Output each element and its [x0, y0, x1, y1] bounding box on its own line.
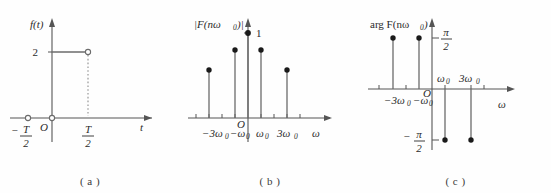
stem-neg-w0	[232, 47, 237, 118]
panel-b-xtick-neg-w0: −ω 0	[230, 127, 250, 141]
svg-text:−ω: −ω	[230, 127, 245, 139]
svg-text:−3ω: −3ω	[384, 94, 405, 106]
svg-text:0: 0	[429, 99, 433, 108]
panel-a: f(t) 2 O t − T 2 T 2 ( a )	[0, 0, 180, 193]
svg-text:0: 0	[407, 99, 411, 108]
svg-text:0: 0	[246, 132, 250, 141]
svg-text:): )	[423, 18, 428, 31]
x-axis-arrow	[507, 86, 515, 92]
svg-text:0: 0	[446, 77, 450, 86]
panel-a-xlabel: t	[140, 121, 144, 133]
svg-text:3ω: 3ω	[458, 72, 473, 84]
x-axis	[10, 115, 152, 121]
panel-a-ylabel: f(t)	[30, 18, 44, 31]
svg-text:ω: ω	[437, 72, 445, 84]
stem-pos-3w0	[284, 67, 289, 118]
svg-text:0: 0	[294, 132, 298, 141]
svg-text:arg F(nω: arg F(nω	[370, 18, 409, 31]
x-axis-arrow	[324, 115, 332, 121]
svg-text:−: −	[403, 130, 410, 142]
panel-c-plot: arg F(nω 0 ) π 2 − π 2 O ω	[360, 0, 551, 163]
panel-c-xtick-pos-w0: ω 0	[437, 72, 450, 86]
panel-a-xtick-T-over-2: T 2	[82, 123, 94, 149]
stem-pos-w0	[442, 89, 447, 143]
y-axis-arrow	[245, 18, 251, 27]
panel-b: |F(nω 0 )| 1 O ω −3ω 0 −ω 0 ω 0	[180, 0, 360, 193]
svg-text:2: 2	[443, 40, 449, 52]
stem-zero	[245, 30, 251, 118]
panel-b-xlabel: ω	[312, 127, 320, 139]
panel-b-plot: |F(nω 0 )| 1 O ω −3ω 0 −ω 0 ω 0	[180, 0, 360, 163]
panel-c: arg F(nω 0 ) π 2 − π 2 O ω	[360, 0, 551, 193]
panel-c-caption: ( c )	[360, 175, 551, 187]
svg-text:3ω: 3ω	[276, 127, 291, 139]
panel-b-y-value-label: 1	[256, 27, 262, 39]
stem-neg-3w0	[390, 35, 395, 89]
stem-neg-3w0	[206, 67, 211, 118]
panel-c-xtick-pos-3w0: 3ω 0	[458, 72, 480, 86]
x-axis	[368, 86, 515, 92]
svg-text:−ω: −ω	[413, 94, 428, 106]
panel-a-xtick-neg-T-over-2: − T 2	[11, 123, 32, 149]
svg-text:T: T	[85, 123, 92, 135]
stem-pos-3w0	[468, 89, 473, 143]
panel-c-ytick-pi-over-2: π 2	[441, 26, 452, 52]
open-circle-neg-T-over-2	[25, 115, 30, 120]
svg-text:0: 0	[225, 132, 229, 141]
panel-a-origin-label: O	[40, 121, 48, 133]
panel-c-xlabel: ω	[498, 98, 506, 110]
y-axis	[49, 18, 55, 142]
panel-b-xtick-pos-w0: ω 0	[256, 127, 269, 141]
svg-text:ω: ω	[256, 127, 264, 139]
svg-text:2: 2	[85, 137, 91, 149]
panel-b-xtick-pos-3w0: 3ω 0	[276, 127, 298, 141]
svg-text:)|: )|	[236, 18, 244, 31]
stem-pos-w0	[258, 47, 263, 118]
panel-a-y-value-label: 2	[33, 46, 39, 58]
open-circle-origin	[49, 115, 54, 120]
stem-neg-w0	[416, 35, 421, 89]
x-axis-arrow	[144, 115, 152, 121]
svg-text:π: π	[443, 26, 449, 38]
panel-c-ytick-neg-pi-over-2: − π 2	[403, 128, 425, 154]
y-axis-arrow	[49, 18, 55, 27]
panel-b-caption: ( b )	[180, 175, 360, 187]
svg-text:0: 0	[476, 77, 480, 86]
svg-text:T: T	[23, 123, 30, 135]
panel-b-xtick-neg-3w0: −3ω 0	[202, 127, 229, 141]
svg-text:2: 2	[23, 137, 29, 149]
svg-text:−3ω: −3ω	[202, 127, 223, 139]
figure-container: f(t) 2 O t − T 2 T 2 ( a )	[0, 0, 551, 193]
panel-b-ylabel: |F(nω 0 )|	[194, 18, 244, 32]
panel-c-xtick-neg-3w0: −3ω 0	[384, 94, 411, 108]
panel-a-caption: ( a )	[0, 175, 180, 187]
svg-text:π: π	[416, 128, 422, 140]
open-circle-T-over-2-top	[85, 49, 90, 54]
svg-text:|F(nω: |F(nω	[194, 18, 221, 31]
svg-text:−: −	[11, 124, 18, 136]
svg-text:0: 0	[265, 132, 269, 141]
panel-c-ylabel: arg F(nω 0 )	[370, 18, 428, 32]
y-axis-arrow	[429, 18, 435, 27]
svg-text:2: 2	[416, 142, 422, 154]
panel-a-plot: f(t) 2 O t − T 2 T 2	[0, 0, 180, 163]
